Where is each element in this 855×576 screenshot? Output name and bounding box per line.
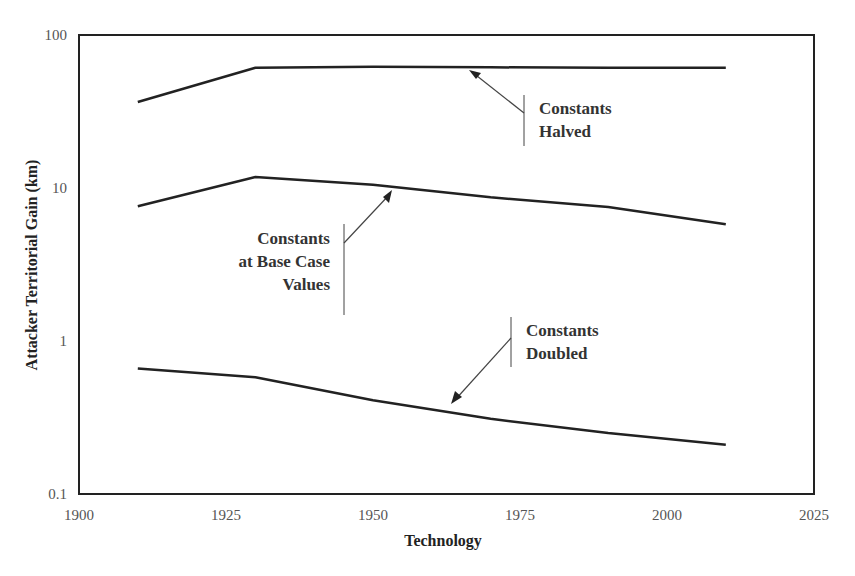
x-tick-label: 2000 xyxy=(652,507,682,523)
arrowhead-icon xyxy=(451,391,462,404)
annotation-label: Halved xyxy=(539,122,591,141)
series-lines xyxy=(138,67,726,445)
annotation-constants-halved: Constants Halved xyxy=(469,70,612,146)
annotation-label: Doubled xyxy=(526,344,588,363)
series-line-constants-at-base-case-values xyxy=(138,177,726,224)
y-tick-label: 100 xyxy=(45,27,68,43)
plot-frame xyxy=(79,35,814,494)
series-line-constants-doubled xyxy=(138,369,726,445)
arrowhead-icon xyxy=(383,190,392,203)
annotation-constants-doubled: Constants Doubled xyxy=(451,317,599,404)
x-tick-label: 1950 xyxy=(358,507,388,523)
annotation-constants-base-case: Constants at Base Case Values xyxy=(238,190,392,315)
annotation-label: Constants xyxy=(257,229,330,248)
annotation-arrow xyxy=(472,72,524,113)
y-tick-label: 10 xyxy=(52,180,67,196)
y-tick-label: 0.1 xyxy=(48,486,67,502)
annotation-label: at Base Case xyxy=(238,252,330,271)
annotation-label: Values xyxy=(282,275,330,294)
x-axis-title: Technology xyxy=(404,532,482,550)
annotation-label: Constants xyxy=(539,99,612,118)
y-axis-title: Attacker Territorial Gain (km) xyxy=(23,160,41,371)
annotation-label: Constants xyxy=(526,321,599,340)
line-chart: 190019251950197520002025 0.1110100 Techn… xyxy=(0,0,855,576)
annotation-arrow xyxy=(455,338,511,400)
x-tick-label: 1975 xyxy=(505,507,535,523)
x-tick-label: 1925 xyxy=(211,507,241,523)
x-tick-label: 2025 xyxy=(799,507,829,523)
x-tick-label: 1900 xyxy=(64,507,94,523)
y-tick-label: 1 xyxy=(60,333,68,349)
series-line-constants-halved xyxy=(138,67,726,102)
y-axis-ticks: 0.1110100 xyxy=(45,27,68,502)
x-axis-ticks: 190019251950197520002025 xyxy=(64,507,829,523)
annotation-arrow xyxy=(344,194,390,243)
